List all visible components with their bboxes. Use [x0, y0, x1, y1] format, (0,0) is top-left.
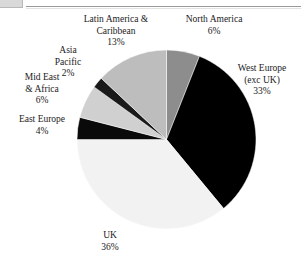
slice-label-latin-america: Latin America & Caribbean 13% — [62, 14, 170, 49]
slice-label-mid-east-africa-line1: Mid East — [8, 72, 76, 84]
page-corner-mark — [0, 0, 23, 8]
slice-label-uk: UK 36% — [80, 230, 140, 253]
slice-label-east-europe-percent: 4% — [2, 126, 82, 138]
slice-label-west-europe: West Europe (exc UK) 33% — [222, 63, 302, 98]
slice-label-west-europe-line2: (exc UK) — [222, 75, 302, 87]
slice-label-west-europe-percent: 33% — [222, 86, 302, 98]
slice-label-north-america-percent: 6% — [168, 26, 260, 38]
slice-label-uk-line1: UK — [80, 230, 140, 242]
slice-label-north-america: North America 6% — [168, 14, 260, 37]
top-horizontal-rule-shadow — [26, 8, 301, 9]
slice-label-asia-pacific-line1: Asia — [40, 45, 96, 57]
slice-label-east-europe-line1: East Europe — [2, 114, 82, 126]
slice-label-latin-america-line2: Caribbean — [62, 26, 170, 38]
pie-chart-figure: Latin America & Caribbean 13% North Amer… — [0, 0, 304, 269]
slice-label-west-europe-line1: West Europe — [222, 63, 302, 75]
top-horizontal-rule — [26, 6, 301, 7]
slice-label-north-america-line1: North America — [168, 14, 260, 26]
slice-label-mid-east-africa-line2: & Africa — [8, 84, 76, 96]
slice-label-mid-east-africa: Mid East & Africa 6% — [8, 72, 76, 107]
slice-label-mid-east-africa-percent: 6% — [8, 95, 76, 107]
slice-label-asia-pacific-line2: Pacific — [40, 57, 96, 69]
slice-label-east-europe: East Europe 4% — [2, 114, 82, 137]
slice-label-latin-america-line1: Latin America & — [62, 14, 170, 26]
slice-label-uk-percent: 36% — [80, 242, 140, 254]
